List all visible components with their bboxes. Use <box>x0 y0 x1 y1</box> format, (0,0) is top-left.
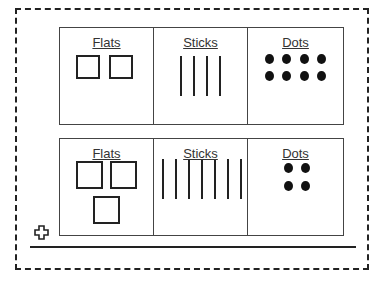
dots-label: Dots <box>248 146 343 161</box>
place-value-table-top: Flats Sticks Dots <box>59 27 344 125</box>
stick-block <box>193 56 195 96</box>
flats-cell: Flats <box>60 28 154 124</box>
sticks-cell: Sticks <box>154 28 248 124</box>
flat-block <box>76 55 100 79</box>
sum-line <box>30 246 356 248</box>
sticks-label: Sticks <box>154 35 247 50</box>
dot-block <box>284 181 293 191</box>
stick-block <box>201 159 203 199</box>
dot-block <box>300 54 309 64</box>
stick-block <box>206 56 208 96</box>
place-value-table-bottom: Flats Sticks Dots <box>59 138 344 236</box>
dot-block <box>300 71 309 81</box>
dot-block <box>284 163 293 173</box>
dot-block <box>265 71 274 81</box>
dot-block <box>265 54 274 64</box>
dots-label: Dots <box>248 35 343 50</box>
stick-block <box>180 56 182 96</box>
flats-label: Flats <box>60 146 153 161</box>
flat-block <box>109 55 133 79</box>
stick-block <box>214 159 216 199</box>
flats-label: Flats <box>60 35 153 50</box>
stick-block <box>219 56 221 96</box>
stick-block <box>175 159 177 199</box>
sticks-label: Sticks <box>154 146 247 161</box>
stick-block <box>227 159 229 199</box>
flat-block <box>110 161 137 189</box>
stick-block <box>162 159 164 199</box>
dots-cell: Dots <box>248 139 343 235</box>
plus-icon <box>34 225 49 240</box>
dot-block <box>282 71 291 81</box>
flat-block <box>76 161 103 189</box>
dot-block <box>301 163 310 173</box>
stick-block <box>188 159 190 199</box>
flats-cell: Flats <box>60 139 154 235</box>
dot-block <box>317 54 326 64</box>
sticks-cell: Sticks <box>154 139 248 235</box>
dot-block <box>301 181 310 191</box>
flat-block <box>93 196 120 224</box>
stick-block <box>240 159 242 199</box>
dots-cell: Dots <box>248 28 343 124</box>
dot-block <box>317 71 326 81</box>
dot-block <box>282 54 291 64</box>
